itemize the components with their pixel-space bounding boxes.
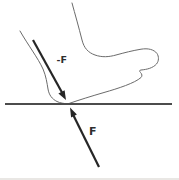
action-force-label: -F: [57, 54, 67, 65]
reaction-force-label: F: [89, 125, 97, 138]
action-force-arrow: [33, 40, 66, 100]
page-edge-artifact: [0, 178, 179, 180]
figure-canvas: -F F: [0, 0, 179, 180]
force-diagram: -F F: [0, 0, 179, 180]
reaction-force-arrow-shaft: [74, 116, 100, 168]
reaction-force-arrowhead-icon: [70, 108, 77, 118]
action-force-arrowhead-icon: [58, 90, 66, 100]
foot-outline: [70, 3, 159, 103]
